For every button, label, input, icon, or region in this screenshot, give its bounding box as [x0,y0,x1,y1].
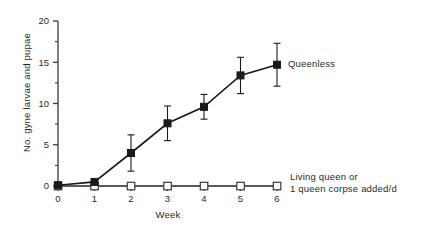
data-point-queenless [164,120,171,127]
data-point-queenless [55,182,62,189]
line-chart-plot: 051015200123456 [0,0,426,231]
data-point-queenless [237,72,244,79]
data-point-queenless [201,103,208,110]
x-tick-label: 0 [55,193,60,204]
data-point-queenright [237,182,245,190]
data-point-queenright [127,182,135,190]
series-label-queenless: Queenless [288,58,335,70]
x-tick-label: 4 [201,193,206,204]
x-tick-label: 5 [238,193,243,204]
y-tick-label: 5 [44,139,49,150]
x-tick-label: 3 [165,193,170,204]
data-point-queenright [273,182,281,190]
data-point-queenright [164,182,172,190]
x-tick-label: 6 [274,193,279,204]
series-label-queenright-line1: Living queen or [290,171,397,183]
x-tick-label: 2 [128,193,133,204]
data-point-queenless [274,61,281,68]
series-label-queenright-line2: 1 queen corpse added/d [290,183,397,195]
tick-labels-group: 051015200123456 [38,15,279,204]
data-point-queenless [91,178,98,185]
x-axis-title: Week [58,209,278,220]
series-queenless [55,43,281,188]
y-tick-label: 0 [44,180,49,191]
data-point-queenless [128,150,135,157]
data-point-queenright [200,182,208,190]
y-tick-label: 10 [38,98,49,109]
series-label-queenright: Living queen or 1 queen corpse added/d [290,171,397,195]
figure-container: 051015200123456 No. gyne larvae and pupa… [0,0,426,231]
x-tick-label: 1 [92,193,97,204]
series-queenright [54,182,280,190]
y-tick-label: 15 [38,57,49,68]
y-axis-title: No. gyne larvae and pupae [21,18,32,168]
y-tick-label: 20 [38,15,49,26]
